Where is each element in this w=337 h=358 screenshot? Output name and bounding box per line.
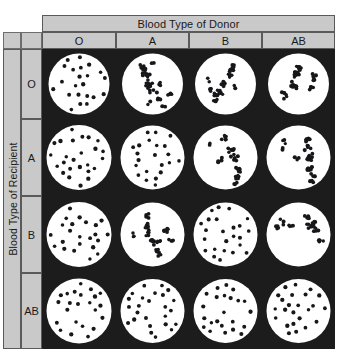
plate-disc	[121, 126, 185, 190]
plate-well-recipient-a-donor-b	[189, 119, 262, 196]
donor-column-header-a: A	[116, 32, 189, 49]
plate-disc	[268, 54, 329, 115]
plate-well-recipient-ab-donor-b	[189, 273, 262, 349]
plate-disc	[47, 279, 112, 344]
plate-disc	[121, 203, 185, 267]
plate-disc	[267, 203, 331, 267]
blood-type-compatibility-figure: Blood Type of Donor O A B AB Blood Type …	[0, 0, 337, 358]
plate-well-recipient-b-donor-a	[116, 196, 189, 273]
corner-block-outer	[3, 32, 21, 49]
recipient-row-header-b: B	[21, 196, 42, 273]
donor-column-header-o: O	[42, 32, 116, 49]
donor-column-header-ab: AB	[262, 32, 335, 49]
plate-well-recipient-b-donor-ab	[262, 196, 335, 273]
plate-well-recipient-o-donor-b	[189, 49, 262, 119]
plate-well-recipient-ab-donor-a	[116, 273, 189, 349]
corner-block-inner	[21, 32, 42, 49]
plate-well-recipient-o-donor-ab	[262, 49, 335, 119]
plate-well-recipient-a-donor-o	[42, 119, 116, 196]
recipient-axis-title-text: Blood Type of Recipient	[6, 142, 18, 255]
donor-column-header-b: B	[189, 32, 262, 49]
plate-well-recipient-b-donor-o	[42, 196, 116, 273]
plate-well-recipient-ab-donor-o	[42, 273, 116, 349]
plate-well-recipient-a-donor-a	[116, 119, 189, 196]
recipient-row-header-ab: AB	[21, 273, 42, 349]
plate-well-recipient-b-donor-b	[189, 196, 262, 273]
recipient-row-header-a: A	[21, 119, 42, 196]
plate-disc	[267, 279, 331, 343]
recipient-axis-title: Blood Type of Recipient	[3, 49, 21, 349]
plate-well-recipient-ab-donor-ab	[262, 273, 335, 349]
plate-well-recipient-a-donor-ab	[262, 119, 335, 196]
plate-well-recipient-o-donor-o	[42, 49, 116, 119]
plate-disc	[194, 203, 258, 267]
plate-disc	[47, 202, 112, 267]
plate-well-recipient-o-donor-a	[116, 49, 189, 119]
donor-axis-title: Blood Type of Donor	[42, 15, 335, 32]
recipient-row-header-o: O	[21, 49, 42, 119]
